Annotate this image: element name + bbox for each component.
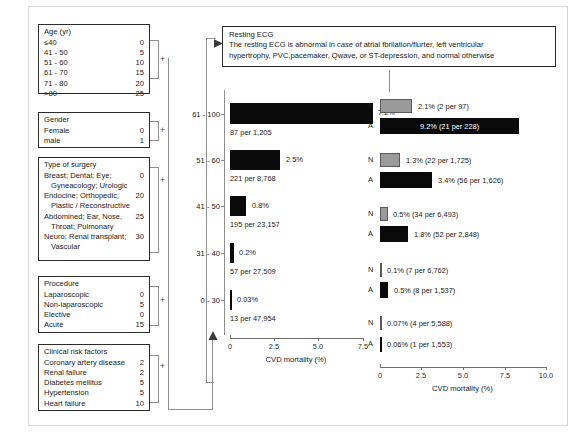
score-table-title: Clinical risk factors [44, 347, 145, 357]
chart-bar-value: 2.5% [286, 155, 303, 164]
series-label-normal: N [368, 265, 373, 274]
chart-bar-abnormal [380, 226, 408, 242]
chart-x-tick-label: 0 [218, 342, 242, 351]
chart-bar-normal [380, 263, 382, 277]
figure-root: Age (yr) ≤400 41 - 505 51 - 6010 61 - 70… [0, 0, 571, 441]
score-row: Laparoscopic0 [44, 290, 145, 300]
ecg-body-part2: of atrial fbrilation/flurter, left ventr… [353, 40, 483, 49]
chart-bar-value: 0.06% (1 per 1,553) [387, 340, 452, 349]
score-row: Abdomined; Ear, Nose,Throat; Pulmonary25 [44, 212, 145, 232]
chart-x-tick [505, 367, 506, 370]
resting-ecg-note: Resting ECG The resting ECG is abnormal … [222, 26, 556, 67]
score-table-title: Gender [44, 115, 145, 125]
score-table-title: Procedure [44, 279, 145, 289]
chart-y-tick [221, 300, 225, 301]
score-table-procedure: Procedure Laparoscopic0 Non-laparoscopic… [38, 276, 150, 333]
resting-ecg-title: Resting ECG [229, 30, 550, 40]
chart-x-tick-label: 5.0 [306, 342, 330, 351]
score-table-title: Type of surgery [44, 160, 145, 170]
chart-x-axis [230, 338, 364, 339]
chart-x-tick-label: 7.5 [493, 371, 517, 380]
chart-bar-normal [380, 99, 412, 113]
resting-ecg-body: The resting ECG is abnormal in case of a… [229, 40, 550, 51]
chart-bar-count: 221 per 8,768 [230, 174, 276, 183]
chart-x-tick-label: 2.5 [262, 342, 286, 351]
chart-x-tick [463, 367, 464, 370]
score-row: Diabetes mellitus5 [44, 378, 145, 388]
series-label-normal: N [368, 318, 373, 327]
score-row: 41 - 505 [44, 48, 145, 58]
chart-x-tick-label: 10.0 [534, 371, 558, 380]
score-row: Hypertension5 [44, 388, 145, 398]
chart-category-label: 31 - 40 [150, 249, 220, 258]
score-table-gender: Gender Female0 male1 [38, 112, 150, 148]
chart-bar-normal [380, 153, 400, 167]
chart-x-tick [230, 335, 231, 338]
connector-bracket [158, 40, 159, 79]
chart-x-tick [380, 364, 381, 367]
chart-x-tick [318, 338, 319, 341]
total-score-chart: 61 - 100 7.2% 87 per 1,205 51 - 60 2.5% … [150, 90, 365, 360]
score-row: 71 - 8020 [44, 79, 145, 89]
chart-y-tick [221, 206, 225, 207]
score-table-type-of-surgery: Type of surgery Breast; Dental; Eye;Gyne… [38, 157, 150, 261]
score-row: Breast; Dental; Eye;Gyneacology; Urologi… [44, 171, 145, 191]
series-label-abnormal: A [368, 285, 373, 294]
score-row: male1 [44, 136, 145, 146]
chart-bar-value: 0.5% (34 per 6,493) [393, 210, 458, 219]
series-label-abnormal: A [368, 229, 373, 238]
chart-category-label: 41 - 50 [150, 202, 220, 211]
chart-category-label: 51 - 60 [150, 156, 220, 165]
chart-bar-normal [380, 207, 388, 221]
connector-plus: + [160, 55, 165, 64]
score-row: Renal failure2 [44, 368, 145, 378]
chart-bar-count: 195 per 23,157 [230, 220, 280, 229]
chart-bar-normal [380, 316, 382, 330]
chart-bar-abnormal [380, 282, 388, 298]
chart-bar [230, 103, 373, 124]
chart-bar-value: 0.07% (4 per 5,588) [387, 319, 452, 328]
chart-bar-value: 0.1% (7 per 6,762) [387, 266, 448, 275]
series-label-normal: N [368, 209, 373, 218]
chart-bar-value: 0.2% [239, 248, 256, 257]
score-row: Non-laparoscopic5 [44, 300, 145, 310]
score-table-title: Age (yr) [44, 27, 145, 37]
ecg-body-part1: The resting ECG is abnormal in [229, 40, 337, 49]
score-row: Female0 [44, 126, 145, 136]
chart-bar [230, 196, 246, 216]
score-row: 61 - 7015 [44, 68, 145, 78]
chart-x-tick [421, 367, 422, 370]
score-row: 51 - 6010 [44, 58, 145, 68]
score-row: Acute15 [44, 320, 145, 330]
series-label-abnormal: A [368, 121, 373, 130]
connector-bracket [158, 355, 159, 403]
chart-bar-count: 13 per 47,954 [230, 314, 276, 323]
chart-bar [230, 290, 232, 310]
score-row: Heart failure10 [44, 399, 145, 409]
connector-ecg-branch [206, 382, 214, 383]
chart-bar-abnormal [380, 172, 432, 188]
chart-x-tick-label: 2.5 [409, 371, 433, 380]
chart-bar-value: 0.8% [252, 201, 269, 210]
chart-bar-count: 57 per 27,509 [230, 267, 276, 276]
chart-y-tick [221, 253, 225, 254]
chart-x-tick [274, 338, 275, 341]
score-table-age: Age (yr) ≤400 41 - 505 51 - 6010 61 - 70… [38, 24, 150, 94]
score-row: Coronary artery disease2 [44, 358, 145, 368]
score-row: Elective0 [44, 310, 145, 320]
chart-x-tick-label: 5.0 [451, 371, 475, 380]
chart-y-tick [221, 160, 225, 161]
series-label-normal: N [368, 101, 373, 110]
score-row: Endocine; Orthopedic;Plastic / Reconstru… [44, 191, 145, 211]
series-label-normal: N [368, 155, 373, 164]
connector-right-branch [389, 70, 390, 92]
connector-spine-tail [168, 409, 212, 410]
connector-plus: + [160, 362, 165, 371]
chart-bar-value: 1.8% (52 per 2,848) [414, 230, 479, 239]
score-row: >8025 [44, 89, 145, 99]
ecg-body-italic: case [337, 40, 353, 49]
chart-bar [230, 243, 234, 263]
chart-y-tick [221, 114, 225, 115]
chart-bar-value: 0.03% [237, 295, 258, 304]
score-table-clinical-risk-factors: Clinical risk factors Coronary artery di… [38, 344, 150, 411]
